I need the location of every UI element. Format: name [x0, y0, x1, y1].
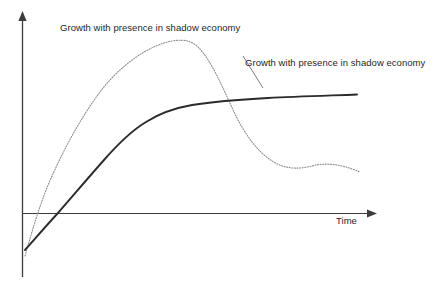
dotted-growth-curve [25, 40, 360, 256]
solid-growth-curve [25, 95, 357, 251]
growth-shadow-economy-chart: Growth with presence in shadow economy G… [0, 0, 444, 283]
y-axis-arrowhead [18, 11, 26, 21]
solid-curve-annotation: Growth with presence in shadow economy [245, 57, 425, 69]
x-axis-arrowhead [367, 209, 377, 217]
chart-canvas [0, 0, 444, 283]
x-axis-label: Time [336, 215, 357, 227]
dotted-curve-annotation: Growth with presence in shadow economy [60, 22, 240, 34]
